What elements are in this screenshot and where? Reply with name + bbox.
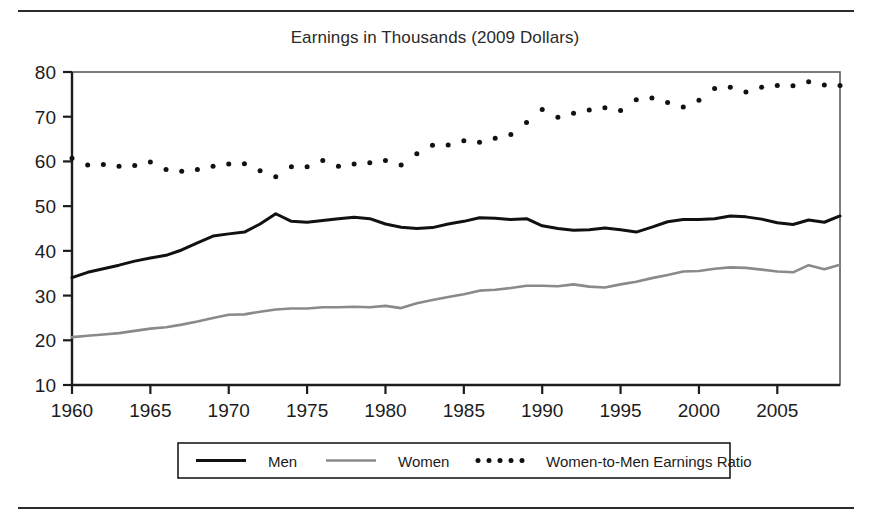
series-line [72,265,840,337]
data-point-marker [367,160,372,165]
data-point-marker [524,120,529,125]
data-point-marker [430,143,435,148]
y-tick-label: 60 [35,151,56,172]
data-point-marker [571,111,576,116]
legend-dotted-swatch [509,458,514,463]
x-tick-label: 1965 [129,400,171,421]
y-axis-tick-labels: 1020304050607080 [35,62,56,396]
data-point-marker [493,136,498,141]
legend-dotted-swatch [520,458,525,463]
data-point-marker [634,97,639,102]
data-point-marker [383,158,388,163]
x-tick-label: 1995 [599,400,641,421]
plot-frame [72,72,840,385]
x-axis-tick-labels: 1960196519701975198019851990199520002005 [51,400,799,421]
legend-dotted-swatch [487,458,492,463]
data-point-marker [649,95,654,100]
data-point-marker [602,105,607,110]
x-tick-label: 1980 [364,400,406,421]
data-point-marker [226,162,231,167]
legend-dotted-swatch [476,458,481,463]
legend-entry-label: Men [268,453,297,470]
line-chart-plot: 1020304050607080 19601965197019751980198… [0,0,870,525]
data-point-marker [712,86,717,91]
data-point-marker [508,132,513,137]
data-point-marker [305,164,310,169]
data-point-marker [555,115,560,120]
legend-entry-label: Women [398,453,449,470]
data-point-marker [179,169,184,174]
data-point-marker [148,159,153,164]
data-point-marker [414,151,419,156]
y-tick-label: 10 [35,375,56,396]
y-tick-label: 40 [35,241,56,262]
data-point-marker [352,162,357,167]
data-point-marker [540,107,545,112]
y-tick-label: 30 [35,286,56,307]
data-point-marker [806,79,811,84]
data-point-marker [728,85,733,90]
x-tick-label: 2000 [678,400,720,421]
x-tick-label: 2005 [756,400,798,421]
x-tick-label: 1985 [443,400,485,421]
data-point-marker [195,167,200,172]
data-point-marker [618,108,623,113]
figure-container: Earnings in Thousands (2009 Dollars) 102… [0,0,870,525]
y-axis-ticks [63,72,72,385]
x-tick-label: 1990 [521,400,563,421]
data-point-marker [273,174,278,179]
x-tick-label: 1975 [286,400,328,421]
y-tick-label: 80 [35,62,56,83]
data-point-marker [70,156,75,161]
data-point-marker [665,100,670,105]
data-point-marker [790,83,795,88]
data-point-marker [743,90,748,95]
x-tick-label: 1960 [51,400,93,421]
data-point-marker [320,158,325,163]
data-point-marker [446,142,451,147]
y-tick-label: 20 [35,330,56,351]
data-point-marker [336,164,341,169]
data-point-marker [289,164,294,169]
data-point-marker [822,82,827,87]
data-point-marker [101,162,106,167]
legend-dotted-swatch [498,458,503,463]
data-point-marker [696,98,701,103]
data-series-layer [70,79,843,337]
data-point-marker [759,85,764,90]
data-point-marker [85,163,90,168]
legend-entry-label: Women-to-Men Earnings Ratio [546,453,752,470]
data-point-marker [164,167,169,172]
data-point-marker [681,104,686,109]
data-point-marker [132,163,137,168]
y-tick-label: 70 [35,107,56,128]
data-point-marker [258,168,263,173]
x-tick-label: 1970 [208,400,250,421]
y-tick-label: 50 [35,196,56,217]
data-point-marker [477,140,482,145]
chart-legend: MenWomenWomen-to-Men Earnings Ratio [178,443,752,478]
data-point-marker [461,138,466,143]
data-point-marker [399,163,404,168]
data-point-marker [587,108,592,113]
data-point-marker [838,83,843,88]
x-axis-ticks [72,385,777,394]
data-point-marker [117,164,122,169]
data-point-marker [242,161,247,166]
data-point-marker [775,83,780,88]
data-point-marker [211,164,216,169]
